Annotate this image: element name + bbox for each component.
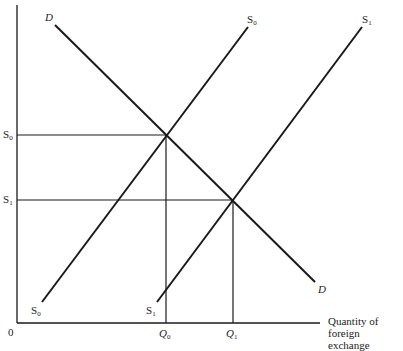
demand-curve xyxy=(55,25,315,282)
supply-s0-label-bottom: S0 xyxy=(31,305,41,318)
supply-s1-label-bottom: S1 xyxy=(146,305,156,318)
y-tick-s0: S0 xyxy=(3,129,13,142)
supply-s1-label-top: S1 xyxy=(362,14,372,27)
x-axis-title-line1: Quantity of xyxy=(328,315,403,327)
supply-curve-s1 xyxy=(157,27,362,302)
demand-label-bottom: D xyxy=(318,284,326,295)
x-tick-q1: Q1 xyxy=(226,328,237,341)
origin-label: 0 xyxy=(8,327,14,338)
x-axis-title: Quantity of foreign exchange xyxy=(328,315,403,351)
supply-curve-s0 xyxy=(42,27,248,302)
supply-s0-label-top: S0 xyxy=(247,14,257,27)
demand-label-top: D xyxy=(45,12,53,23)
x-tick-q0: Q0 xyxy=(159,328,170,341)
x-axis-title-line2: foreign exchange xyxy=(328,327,403,351)
y-tick-s1: S1 xyxy=(3,194,13,207)
